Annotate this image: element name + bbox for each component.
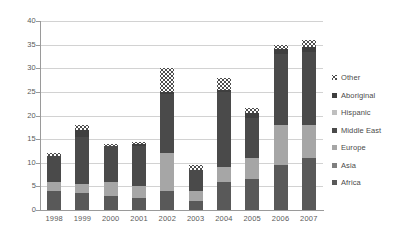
bar-segment-africa <box>189 201 203 210</box>
bar-segment-africa <box>104 196 118 210</box>
bar-segment-africa <box>75 193 89 210</box>
bar-segment-africa <box>160 191 174 210</box>
legend-label: Africa <box>341 178 361 187</box>
y-axis-tick-mark <box>36 21 40 22</box>
bar-stack <box>302 40 316 210</box>
bar-segment-middle-east <box>302 52 316 125</box>
x-axis-tick-label: 1998 <box>40 214 68 234</box>
bar-segment-middle-east <box>160 94 174 153</box>
legend-item-hispanic: Hispanic <box>332 104 402 122</box>
bar-column <box>153 21 181 210</box>
bar-segment-africa <box>132 198 146 210</box>
bar-segment-middle-east <box>274 54 288 125</box>
legend-label: Other <box>341 73 360 82</box>
bar-column <box>181 21 209 210</box>
legend-swatch-icon <box>332 75 337 80</box>
y-axis-tick-mark <box>36 210 40 211</box>
y-axis-tick-mark <box>36 186 40 187</box>
bar-segment-africa <box>217 182 231 210</box>
bar-column <box>97 21 125 210</box>
x-axis-tick-label: 1999 <box>68 214 96 234</box>
x-axis-tick-label: 2004 <box>210 214 238 234</box>
legend-label: Europe <box>341 143 366 152</box>
legend-swatch-icon <box>332 110 337 115</box>
legend-item-europe: Europe <box>332 139 402 157</box>
y-axis-tick-label: 40 <box>6 16 36 25</box>
bar-stack <box>217 78 231 210</box>
bar-segment-europe <box>75 184 89 193</box>
legend-label: Asia <box>341 161 356 170</box>
bar-segment-europe <box>302 125 316 158</box>
bar-segment-africa <box>302 158 316 210</box>
y-axis-tick-label: 25 <box>6 87 36 96</box>
bar-column <box>238 21 266 210</box>
y-axis-tick-label: 30 <box>6 63 36 72</box>
bar-segment-other <box>302 40 316 47</box>
bar-column <box>295 21 323 210</box>
bar-segment-middle-east <box>132 146 146 186</box>
x-axis-tick-label: 2000 <box>97 214 125 234</box>
bar-segment-europe <box>132 186 146 198</box>
bar-column <box>266 21 294 210</box>
bar-stack <box>104 144 118 210</box>
legend-label: Middle East <box>341 126 381 135</box>
y-axis-tick-mark <box>36 139 40 140</box>
x-axis-tick-label: 2002 <box>153 214 181 234</box>
legend-item-asia: Asia <box>332 157 402 175</box>
bar-stack <box>245 108 259 210</box>
x-axis-tick-label: 2005 <box>238 214 266 234</box>
legend-item-africa: Africa <box>332 174 402 192</box>
bar-stack <box>160 68 174 210</box>
bar-segment-europe <box>160 153 174 191</box>
legend-swatch-icon <box>332 163 337 168</box>
y-axis-tick-mark <box>36 92 40 93</box>
legend-label: Aboriginal <box>341 91 375 100</box>
bar-segment-other <box>217 78 231 90</box>
y-axis-tick-label: 35 <box>6 40 36 49</box>
bar-segment-europe <box>274 125 288 165</box>
bar-column <box>40 21 68 210</box>
legend-item-middle-east: Middle East <box>332 122 402 140</box>
x-axis-line <box>40 210 324 211</box>
legend-swatch-icon <box>332 128 337 133</box>
bar-stack <box>47 153 61 210</box>
y-axis-tick-mark <box>36 45 40 46</box>
bar-segment-europe <box>104 182 118 196</box>
legend-item-aboriginal: Aboriginal <box>332 87 402 105</box>
bar-stack <box>75 125 89 210</box>
x-axis-tick-label: 2006 <box>266 214 294 234</box>
bar-segment-europe <box>245 158 259 179</box>
bar-segment-aboriginal <box>75 130 89 137</box>
y-axis-tick-mark <box>36 116 40 117</box>
bar-series-container <box>40 21 323 210</box>
bar-stack <box>274 45 288 210</box>
bar-segment-middle-east <box>217 92 231 168</box>
bar-column <box>125 21 153 210</box>
bar-segment-middle-east <box>104 146 118 181</box>
bar-segment-middle-east <box>189 170 203 191</box>
bar-segment-europe <box>189 191 203 200</box>
legend-swatch-icon <box>332 145 337 150</box>
y-axis-tick-mark <box>36 163 40 164</box>
x-axis-tick-label: 2001 <box>125 214 153 234</box>
y-axis-labels: 0510152025303540 <box>0 0 36 248</box>
x-axis-tick-label: 2003 <box>181 214 209 234</box>
bar-segment-africa <box>245 179 259 210</box>
x-axis-labels: 1998199920002001200220032004200520062007 <box>40 214 323 234</box>
y-axis-tick-label: 0 <box>6 205 36 214</box>
y-axis-tick-label: 15 <box>6 134 36 143</box>
y-axis-tick-label: 5 <box>6 181 36 190</box>
bar-stack <box>189 165 203 210</box>
bar-stack <box>132 142 146 211</box>
legend-swatch-icon <box>332 180 337 185</box>
bar-segment-middle-east <box>75 137 89 184</box>
legend-label: Hispanic <box>341 108 371 117</box>
bar-segment-africa <box>47 191 61 210</box>
y-axis-tick-label: 20 <box>6 111 36 120</box>
y-axis-tick-mark <box>36 68 40 69</box>
bar-segment-other <box>160 68 174 92</box>
bar-segment-middle-east <box>47 156 61 182</box>
bar-segment-europe <box>47 182 61 191</box>
bar-segment-europe <box>217 167 231 181</box>
bar-segment-middle-east <box>245 118 259 158</box>
